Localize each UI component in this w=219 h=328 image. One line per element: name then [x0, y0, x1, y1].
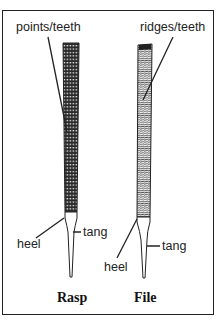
file-caption: File	[134, 291, 157, 305]
tools-illustration	[0, 0, 219, 328]
file-heel-label: heel	[104, 261, 128, 274]
file-ridges-teeth-label: ridges/teeth	[140, 21, 205, 34]
rasp-illustration	[36, 37, 81, 277]
rasp-caption: Rasp	[57, 291, 87, 305]
rasp-tang-label: tang	[83, 226, 107, 239]
rasp-heel-label: heel	[17, 238, 41, 251]
rasp-points-teeth-label: points/teeth	[16, 21, 81, 34]
file-tang-label: tang	[162, 240, 186, 253]
